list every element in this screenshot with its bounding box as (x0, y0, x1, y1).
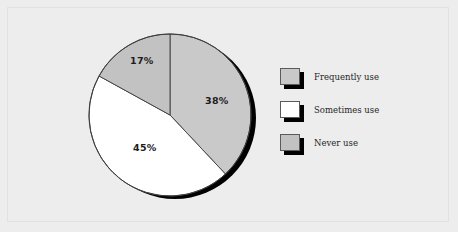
legend-item-frequently-use[interactable]: Frequently use (278, 66, 428, 99)
legend-swatch-face (280, 68, 300, 85)
pie-chart (86, 28, 262, 206)
legend-item-never-use[interactable]: Never use (278, 132, 428, 165)
legend-swatch-sometimes-use (280, 101, 300, 118)
legend-label-never-use: Never use (314, 135, 358, 151)
legend-swatch-face (280, 134, 300, 151)
legend-swatch-never-use (280, 134, 300, 151)
legend-item-sometimes-use[interactable]: Sometimes use (278, 99, 428, 132)
legend-swatch-face (280, 101, 300, 118)
legend-label-sometimes-use: Sometimes use (314, 102, 379, 118)
legend-swatch-frequently-use (280, 68, 300, 85)
pie-label-frequently: 38% (205, 95, 229, 106)
chart-canvas: 38% 45% 17% Frequently use Sometimes use… (0, 0, 458, 232)
pie-chart-svg (86, 28, 262, 206)
pie-label-never: 17% (130, 55, 154, 66)
legend-label-frequently-use: Frequently use (314, 69, 379, 85)
chart-legend: Frequently use Sometimes use Never use (278, 66, 428, 165)
pie-label-sometimes: 45% (133, 142, 157, 153)
